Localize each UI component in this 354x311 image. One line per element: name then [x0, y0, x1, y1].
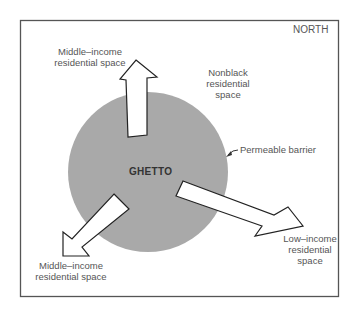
region-label-line: Nonblack: [198, 67, 258, 78]
region-label-middle-income-southwest: Middle–income residential space: [34, 260, 108, 282]
region-label-line: residential: [280, 244, 340, 255]
region-label-middle-income-north: Middle–income residential space: [48, 46, 132, 68]
barrier-leader-arrowhead-icon: [226, 151, 232, 157]
permeable-barrier-label: Permeable barrier: [240, 144, 316, 155]
region-label-line: Low–income: [280, 233, 340, 244]
region-label-nonblack: Nonblack residential space: [198, 67, 258, 100]
region-label-line: Middle–income: [34, 260, 108, 271]
region-label-line: space: [198, 89, 258, 100]
ghetto-label: GHETTO: [129, 166, 172, 177]
region-label-low-income-southeast: Low–income residential space: [280, 233, 340, 266]
region-label-line: residential space: [48, 57, 132, 68]
region-label-line: residential space: [34, 271, 108, 282]
region-label-line: residential: [198, 78, 258, 89]
north-label: NORTH: [293, 24, 333, 35]
region-label-line: space: [280, 255, 340, 266]
region-label-line: Middle–income: [48, 46, 132, 57]
